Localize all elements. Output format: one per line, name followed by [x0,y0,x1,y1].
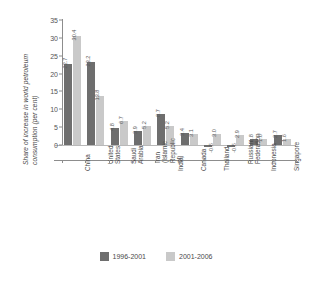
bar-value-label: 2.9 [234,130,240,138]
x-axis-tick-mark [248,160,249,163]
x-axis-tick-mark [155,160,156,163]
bar-value-label: 3.9 [132,126,138,134]
x-axis-category-labels: ChinaUnited StatesSaudi ArabiaIran (Isla… [62,163,295,233]
bar-group: 1.81.6 [248,20,271,145]
bar[interactable]: 3.9 [134,131,142,145]
x-axis-tick-mark [225,160,226,163]
legend-item[interactable]: 2001-2006 [166,252,212,261]
y-axis-title: Share of increase in world petroleum con… [22,15,42,165]
bar[interactable]: 1.6 [283,139,291,145]
bar-chart: Share of increase in world petroleum con… [0,0,312,283]
bar-group: 4.86.7 [109,20,132,145]
bar-value-label: 4.8 [109,123,115,131]
legend-color-swatch [100,252,109,261]
bar-value-label: 22.7 [62,57,68,68]
bar[interactable]: 6.7 [120,121,128,145]
bar[interactable]: 4.8 [111,128,119,145]
x-axis-tick-mark [202,160,203,163]
bar[interactable]: 3.0 [213,134,221,145]
legend-label: 2001-2006 [179,253,212,260]
bar-group: 3.43.1 [179,20,202,145]
bar[interactable]: 23.2 [87,62,95,145]
x-axis-tick-mark [132,160,133,163]
bar-group: -0.52.9 [225,20,248,145]
x-axis-tick-mark [62,160,63,163]
bar-group: 2.71.6 [272,20,295,145]
chart-legend: 1996-20012001-2006 [0,252,312,261]
bar-value-label: 23.2 [85,56,91,67]
bar-value-label: 1.6 [281,134,287,142]
bar-value-label: 6.7 [118,116,124,124]
x-axis-tick-mark [295,160,296,163]
legend-item[interactable]: 1996-2001 [100,252,146,261]
bar[interactable]: 2.9 [236,135,244,145]
bar[interactable]: 5.2 [143,126,151,145]
bar[interactable]: 3.1 [190,134,198,145]
legend-label: 1996-2001 [113,253,146,260]
x-axis-tick-mark [272,160,273,163]
bar-value-label: 5.2 [164,122,170,130]
bar-group: 23.213.8 [85,20,108,145]
x-axis-tick-mark [109,160,110,163]
bar-value-label: 3.4 [179,128,185,136]
x-axis-tick-mark [179,160,180,163]
legend-color-swatch [166,252,175,261]
bar-value-label: 2.7 [272,130,278,138]
bar[interactable]: -0.5 [204,145,212,147]
bar-value-label: 30.4 [71,30,77,41]
bar-value-label: 3.1 [188,129,194,137]
bar-group: 3.95.2 [132,20,155,145]
bar-value-label: 3.0 [211,129,217,137]
bar-value-label: 5.2 [141,122,147,130]
x-axis-tick-mark [85,160,86,163]
bar-value-label: 8.7 [155,109,161,117]
bar[interactable]: 30.4 [73,36,81,145]
bar-group: 22.730.4 [62,20,85,145]
bar-groups: 22.730.423.213.84.86.73.95.28.75.23.43.1… [62,20,295,145]
bar[interactable]: 22.7 [64,64,72,145]
bar-value-label: 13.8 [94,89,100,100]
bar-group: 8.75.2 [155,20,178,145]
bar[interactable]: 13.8 [96,96,104,145]
bar-group: -0.53.0 [202,20,225,145]
